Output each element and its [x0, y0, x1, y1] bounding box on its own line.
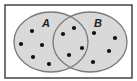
element-dot-a-and-b — [67, 53, 71, 57]
element-dot-a-only — [40, 43, 44, 47]
element-dot-b-only — [113, 36, 117, 40]
set-label-a: A — [41, 17, 50, 29]
element-dot-b-only — [107, 49, 111, 53]
element-dot-b-only — [91, 60, 95, 64]
element-dot-a-and-b — [80, 46, 84, 50]
element-dot-a-only — [31, 55, 35, 59]
element-dot-a-only — [19, 42, 23, 46]
set-label-b: B — [94, 17, 102, 29]
element-dot-b-only — [92, 31, 96, 35]
venn-diagram: A B — [0, 0, 137, 81]
element-dot-a-and-b — [72, 26, 76, 30]
element-dot-a-only — [47, 62, 51, 66]
set-fills — [14, 12, 127, 72]
element-dot-a-only — [30, 29, 34, 33]
element-dot-a-and-b — [61, 32, 65, 36]
